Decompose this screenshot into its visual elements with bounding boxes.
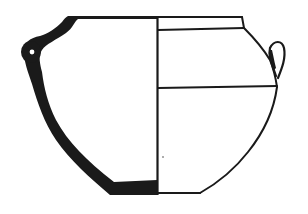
left-handle-hole xyxy=(30,50,35,55)
pottery-vessel-drawing xyxy=(0,0,308,214)
ink-speck xyxy=(162,156,164,158)
pottery-figure: vessel profile with section (left) and e… xyxy=(0,0,308,214)
